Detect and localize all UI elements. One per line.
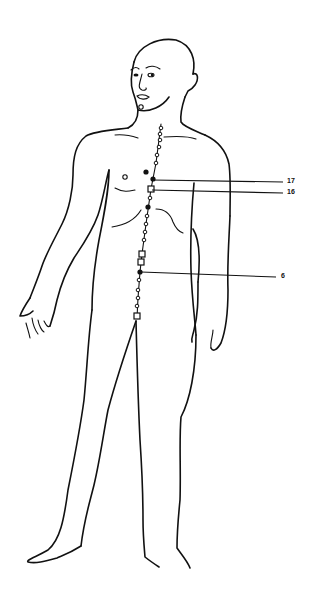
meridian-point-filled: [143, 169, 148, 174]
meridian-point-open: [137, 278, 141, 282]
meridian-point-open: [148, 196, 152, 200]
meridian-point-filled: [145, 204, 150, 209]
leader-lines: [141, 180, 283, 277]
left-arm: [20, 170, 109, 338]
leader-line-6: [141, 272, 276, 277]
meridian-point-open: [155, 153, 159, 157]
meridian-point-open: [143, 230, 147, 234]
meridian-point-open: [158, 138, 162, 142]
meridian-point-filled: [150, 176, 155, 181]
legs: [28, 310, 196, 568]
body-diagram: [0, 0, 315, 605]
meridian-point-open: [136, 296, 140, 300]
meridian-point-open: [135, 304, 139, 308]
meridian-point-open: [142, 238, 146, 242]
neck-right: [181, 97, 205, 135]
meridian-points: [134, 126, 163, 319]
meridian-point-open: [157, 145, 161, 149]
point-label-17: 17: [287, 177, 295, 184]
point-label-16: 16: [287, 188, 295, 195]
meridian-point-square: [134, 313, 140, 319]
meridian-point-open: [158, 132, 162, 136]
meridian-point-square: [148, 186, 154, 192]
meridian-point-open: [154, 161, 158, 165]
leader-line-16: [152, 190, 283, 193]
right-arm: [192, 216, 230, 350]
torso: [30, 128, 230, 335]
point-label-6: 6: [281, 272, 285, 279]
leader-line-17: [152, 180, 283, 182]
meridian-point-square: [138, 259, 144, 265]
meridian-point-open: [145, 214, 149, 218]
meridian-point-open: [159, 126, 163, 130]
neck-left: [128, 110, 138, 128]
head: [131, 39, 197, 110]
meridian-point-square: [139, 251, 145, 257]
meridian-point-open: [136, 288, 140, 292]
meridian-point-open: [144, 222, 148, 226]
